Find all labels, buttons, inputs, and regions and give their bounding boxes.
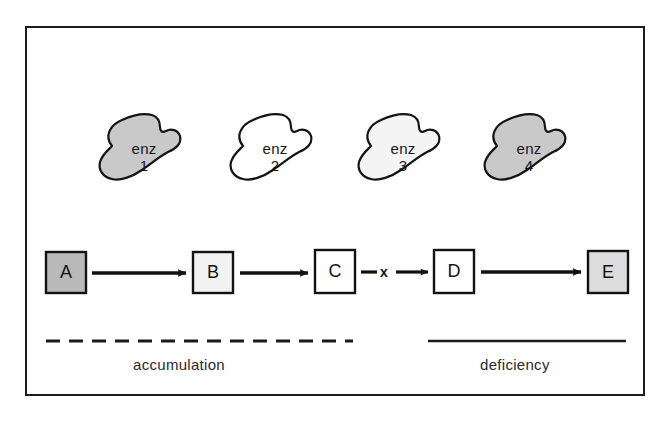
enzyme-2-name: enz: [263, 140, 288, 157]
metabolite-label-a: A: [46, 252, 86, 293]
deficiency-caption: deficiency: [480, 356, 550, 373]
enzyme-2-number: 2: [245, 157, 305, 174]
enzyme-blob-2-label: enz 2: [245, 140, 305, 174]
enzyme-blob-3-label: enz 3: [373, 140, 433, 174]
metabolite-label-e: E: [588, 251, 628, 293]
enzyme-4-name: enz: [517, 140, 542, 157]
metabolite-label-d: D: [434, 250, 474, 293]
metabolite-label-b: B: [193, 252, 233, 293]
diagram-vector-layer: [0, 0, 663, 421]
enzyme-blob-1-label: enz 1: [114, 140, 174, 174]
pathway-block-x-marker: x: [380, 264, 388, 280]
enzyme-4-number: 4: [499, 157, 559, 174]
enzyme-3-name: enz: [391, 140, 416, 157]
enzyme-3-number: 3: [373, 157, 433, 174]
enzyme-1-name: enz: [132, 140, 157, 157]
enzyme-1-number: 1: [114, 157, 174, 174]
diagram-canvas: enz 1 enz 2 enz 3 enz 4 A B C D E x accu…: [0, 0, 663, 421]
accumulation-caption: accumulation: [133, 356, 225, 373]
enzyme-blob-4-label: enz 4: [499, 140, 559, 174]
metabolite-label-c: C: [315, 250, 355, 293]
